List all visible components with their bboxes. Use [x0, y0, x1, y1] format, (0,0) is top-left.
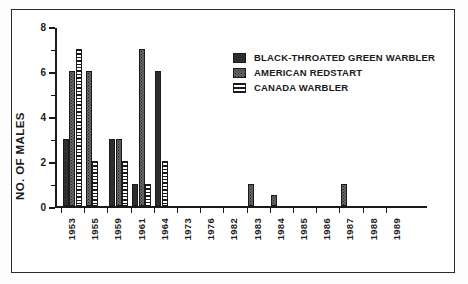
bar-1953-series-1 — [69, 71, 75, 206]
y-tick-2 — [49, 162, 55, 164]
legend-item-2: CANADA WARBLER — [233, 81, 435, 94]
bar-1983-series-1 — [248, 184, 254, 207]
bar-1955-series-1 — [86, 71, 92, 206]
x-tick-label-1953: 1953 — [66, 218, 77, 240]
x-tick-label-1964: 1964 — [159, 218, 170, 240]
x-tick-label-1987: 1987 — [344, 218, 355, 240]
legend-swatch-stipple — [233, 68, 246, 78]
x-tick-label-1955: 1955 — [89, 218, 100, 240]
x-tick-label-1986: 1986 — [321, 218, 332, 240]
legend-label-1: AMERICAN REDSTART — [254, 67, 362, 78]
legend-item-1: AMERICAN REDSTART — [233, 66, 435, 79]
bar-1961-series-1 — [139, 49, 145, 207]
y-axis-title: NO. OF MALES — [14, 30, 26, 200]
bar-1961-series-2 — [145, 184, 151, 207]
bar-1953-series-2 — [76, 49, 82, 207]
legend-item-0: BLACK-THROATED GREEN WARBLER — [233, 51, 435, 64]
x-tick-1983 — [247, 208, 248, 213]
y-tick-label-8: 8 — [40, 23, 46, 33]
x-tick-label-1973: 1973 — [182, 218, 193, 240]
x-tick-label-1985: 1985 — [298, 218, 309, 240]
y-tick-8 — [49, 27, 55, 29]
bar-1959-series-0 — [109, 139, 115, 207]
figure: NO. OF MALES 02468 195319551959196119641… — [0, 0, 468, 284]
y-tick-label-6: 6 — [40, 68, 46, 78]
legend-swatch-hstripe — [233, 83, 246, 93]
x-tick-label-1961: 1961 — [136, 218, 147, 240]
x-tick-1955 — [84, 208, 85, 213]
bar-1961-series-0 — [132, 184, 138, 207]
bar-1964-series-0 — [155, 71, 161, 206]
x-tick-1959 — [107, 208, 108, 213]
bar-1959-series-2 — [122, 161, 128, 206]
legend-label-2: CANADA WARBLER — [254, 82, 348, 93]
y-tick-6 — [49, 72, 55, 74]
y-tick-minor-5 — [51, 95, 55, 96]
y-tick-label-4: 4 — [40, 113, 46, 123]
legend-label-0: BLACK-THROATED GREEN WARBLER — [254, 52, 435, 63]
x-tick-1964 — [154, 208, 155, 213]
y-tick-minor-1 — [51, 185, 55, 186]
y-tick-minor-3 — [51, 140, 55, 141]
x-tick-1989 — [386, 208, 387, 213]
y-tick-label-2: 2 — [40, 158, 46, 168]
x-tick-label-1984: 1984 — [275, 218, 286, 240]
y-tick-minor-7 — [51, 50, 55, 51]
x-tick-1984 — [270, 208, 271, 213]
bar-1987-series-1 — [341, 184, 347, 207]
x-tick-label-1976: 1976 — [205, 218, 216, 240]
legend: BLACK-THROATED GREEN WARBLERAMERICAN RED… — [233, 51, 435, 96]
x-tick-label-1959: 1959 — [112, 218, 123, 240]
x-tick-1988 — [363, 208, 364, 213]
bar-1984-series-1 — [271, 195, 277, 206]
bar-1953-series-0 — [63, 139, 69, 207]
y-tick-label-0: 0 — [40, 203, 46, 213]
y-tick-0 — [49, 207, 55, 209]
bar-1955-series-2 — [92, 161, 98, 206]
y-tick-4 — [49, 117, 55, 119]
x-tick-1982 — [223, 208, 224, 213]
y-axis-line — [55, 28, 57, 208]
x-tick-label-1988: 1988 — [368, 218, 379, 240]
x-tick-1985 — [293, 208, 294, 213]
x-tick-1953 — [61, 208, 62, 213]
x-tick-label-1983: 1983 — [252, 218, 263, 240]
x-tick-1987 — [339, 208, 340, 213]
x-tick-1976 — [200, 208, 201, 213]
x-tick-1986 — [316, 208, 317, 213]
x-tick-label-1982: 1982 — [228, 218, 239, 240]
x-tick-1973 — [177, 208, 178, 213]
x-axis-line — [55, 206, 427, 208]
bar-1964-series-2 — [162, 161, 168, 206]
x-tick-label-1989: 1989 — [391, 218, 402, 240]
bar-1959-series-1 — [116, 139, 122, 207]
legend-swatch-solid — [233, 53, 246, 63]
x-tick-1961 — [131, 208, 132, 213]
